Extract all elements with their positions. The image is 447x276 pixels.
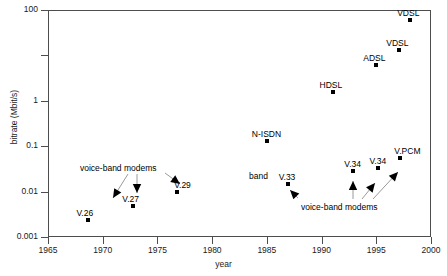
data-point-label: V.26 [76,209,93,218]
y-tick-label: 1 [0,96,38,105]
data-point-marker [374,63,378,67]
x-tick-mark [431,237,432,244]
annotation-label: band [249,172,268,181]
data-point-label: VDSL [386,39,408,48]
data-point-marker [397,48,401,52]
x-tick-mark [212,237,213,244]
x-tick-mark [267,237,268,244]
data-point-label: V.29 [174,181,191,190]
x-tick-mark [322,237,323,244]
y-tick-mark [41,146,49,147]
y-tick-mark [41,101,49,102]
x-tick-mark [48,237,49,244]
data-point-label: N-ISDN [252,130,281,139]
x-tick-label: 1995 [351,245,401,255]
x-tick-mark [157,237,158,244]
y-tick-label: 0.1 [0,141,38,150]
data-point-label: ADSL [363,54,385,63]
y-tick-mark [41,10,49,11]
x-tick-label: 1965 [23,245,73,255]
x-tick-mark [103,237,104,244]
x-tick-label: 1970 [78,245,128,255]
data-point-label: V.34 [344,160,361,169]
chart-container: 10010.10.010.001 19651970197519801985199… [0,0,447,276]
data-point-label: V.34 [369,157,386,166]
y-axis-title: bitrate (Mbit/s) [9,62,19,172]
data-point-label: VDSL [397,9,419,18]
y-tick-mark [41,192,49,193]
annotation-label: voice-band modems [301,203,378,212]
data-point-marker [86,218,90,222]
x-tick-label: 1975 [132,245,182,255]
x-tick-label: 2000 [406,245,447,255]
annotation-label: voice-band modems [80,164,157,173]
x-tick-label: 1985 [242,245,292,255]
y-tick-mark [41,55,49,56]
y-tick-label: 0.01 [0,187,38,196]
data-point-label: V.27 [122,195,139,204]
data-point-marker [175,190,179,194]
data-point-marker [331,90,335,94]
data-point-marker [265,139,269,143]
x-tick-label: 1990 [297,245,347,255]
y-tick-label: 0.001 [0,232,38,241]
data-point-marker [286,182,290,186]
y-tick-label: 100 [0,5,38,14]
x-tick-label: 1980 [187,245,237,255]
data-point-marker [376,166,380,170]
data-point-marker [131,204,135,208]
data-point-label: HDSL [320,81,343,90]
data-point-marker [408,18,412,22]
data-point-marker [351,169,355,173]
data-point-label: V.33 [279,173,296,182]
data-point-marker [398,156,402,160]
x-tick-mark [376,237,377,244]
x-axis-title: year [0,259,447,269]
data-point-label: V.PCM [394,147,420,156]
